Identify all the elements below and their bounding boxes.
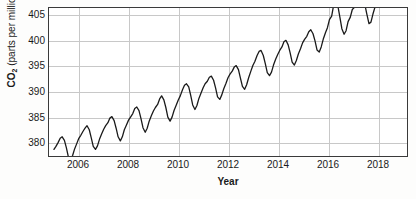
x-axis-tick-labels: 2006200820102012201420162018	[48, 159, 408, 175]
y-tick-label: 385	[5, 111, 45, 122]
y-tick-label: 400	[5, 34, 45, 45]
y-tick-label: 395	[5, 60, 45, 71]
co2-line-chart: CO2 (parts per million) 3803853903954004…	[0, 0, 416, 199]
y-tick-label: 380	[5, 137, 45, 148]
x-tick-label: 2012	[217, 159, 239, 170]
x-axis-title: Year	[48, 176, 408, 187]
y-tick-label: 390	[5, 85, 45, 96]
x-tick-label: 2018	[367, 159, 389, 170]
x-tick-label: 2014	[267, 159, 289, 170]
data-line	[49, 8, 407, 156]
y-tick-label: 405	[5, 9, 45, 20]
x-tick-label: 2010	[167, 159, 189, 170]
x-tick-label: 2008	[117, 159, 139, 170]
plot-area	[48, 7, 408, 157]
series-path	[54, 8, 388, 156]
x-tick-label: 2016	[317, 159, 339, 170]
x-tick-label: 2006	[67, 159, 89, 170]
y-axis-tick-labels: 380385390395400405	[0, 0, 45, 199]
